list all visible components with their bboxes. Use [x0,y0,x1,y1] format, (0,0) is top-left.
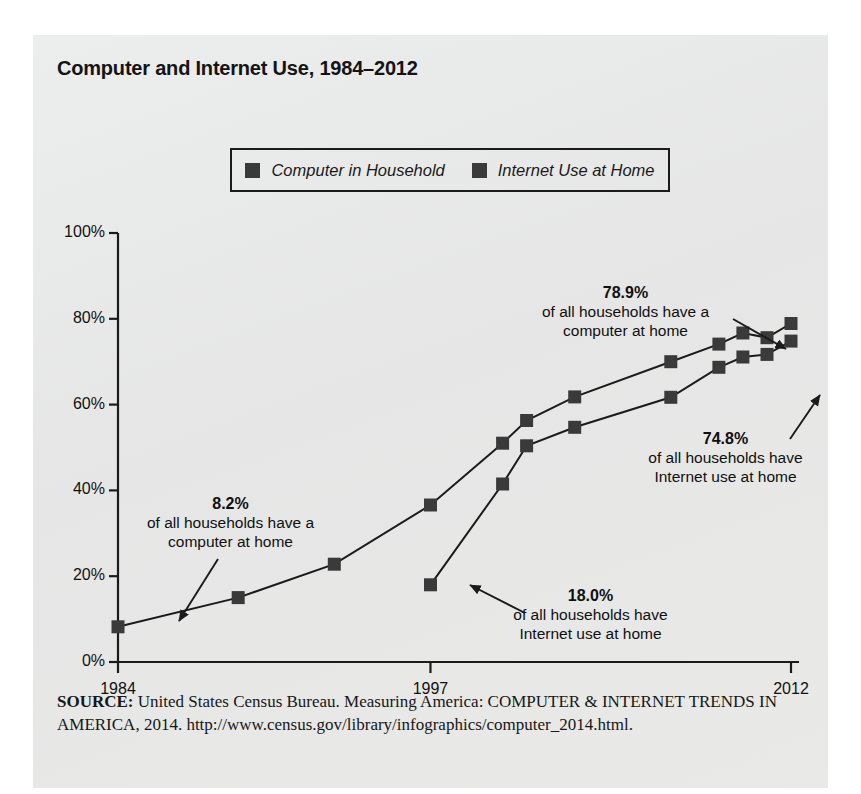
y-axis-tick-label: 80% [43,309,105,327]
plot-area: 0%20%40%60%80%100%198419972012 8.2%of al… [33,35,828,735]
data-point-marker [328,558,341,571]
annotation-line-1: of all households have [513,606,667,623]
y-axis-tick-label: 60% [43,395,105,413]
annotation-leader-arrow-icon [179,559,218,621]
chart-canvas [33,35,828,735]
data-point-marker [232,591,245,604]
data-point-marker [736,351,749,364]
y-axis-tick-label: 0% [43,652,105,670]
chart-annotation-internet-start: 18.0%of all households haveInternet use … [473,586,708,643]
annotation-line-2: Internet use at home [519,625,661,642]
data-point-marker [424,499,437,512]
annotation-line-2: Internet use at home [654,468,796,485]
data-point-marker [520,439,533,452]
data-point-marker [112,620,125,633]
annotation-line-1: of all households have a [147,514,314,531]
data-point-marker [664,391,677,404]
annotation-value: 78.9% [503,283,748,302]
y-axis-tick-label: 100% [43,223,105,241]
y-axis-tick-label: 40% [43,480,105,498]
data-point-marker [496,437,509,450]
annotation-value: 74.8% [608,429,843,448]
data-point-marker [761,348,774,361]
annotation-line-1: of all households have [648,449,802,466]
annotation-line-1: of all households have a [542,303,709,320]
annotation-line-2: computer at home [168,533,293,550]
chart-annotation-computer-end: 78.9%of all households have acomputer at… [503,283,748,340]
annotation-line-2: computer at home [563,322,688,339]
data-point-marker [785,335,798,348]
source-note: SOURCE: United States Census Bureau. Mea… [57,690,817,736]
annotation-value: 18.0% [473,586,708,605]
source-label: SOURCE: [57,692,134,711]
data-point-marker [712,361,725,374]
data-point-marker [664,355,677,368]
infographic-figure: Computer and Internet Use, 1984–2012 Com… [33,35,828,788]
data-point-marker [496,478,509,491]
chart-annotation-internet-end: 74.8%of all households haveInternet use … [608,429,843,486]
data-point-marker [520,414,533,427]
data-point-marker [568,421,581,434]
data-point-marker [785,317,798,330]
y-axis-tick-label: 20% [43,566,105,584]
chart-annotation-computer-start: 8.2%of all households have acomputer at … [118,494,343,551]
data-point-marker [568,390,581,403]
source-text: United States Census Bureau. Measuring A… [57,692,777,734]
data-point-marker [424,578,437,591]
annotation-value: 8.2% [118,494,343,513]
